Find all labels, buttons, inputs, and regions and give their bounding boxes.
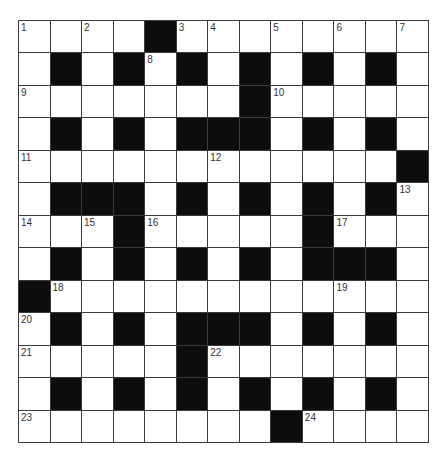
answer-cell[interactable]: 14 (19, 216, 51, 248)
answer-cell[interactable] (271, 313, 303, 345)
answer-cell[interactable] (334, 378, 366, 410)
answer-cell[interactable] (271, 183, 303, 215)
answer-cell[interactable] (51, 411, 83, 443)
answer-cell[interactable] (145, 118, 177, 150)
answer-cell[interactable] (397, 411, 429, 443)
answer-cell[interactable] (271, 118, 303, 150)
answer-cell[interactable] (240, 151, 272, 183)
answer-cell[interactable] (240, 281, 272, 313)
answer-cell[interactable] (334, 313, 366, 345)
answer-cell[interactable] (114, 281, 146, 313)
answer-cell[interactable]: 12 (208, 151, 240, 183)
answer-cell[interactable] (303, 21, 335, 53)
answer-cell[interactable] (145, 346, 177, 378)
answer-cell[interactable] (208, 216, 240, 248)
answer-cell[interactable] (397, 118, 429, 150)
answer-cell[interactable] (334, 151, 366, 183)
answer-cell[interactable]: 6 (334, 21, 366, 53)
answer-cell[interactable]: 11 (19, 151, 51, 183)
answer-cell[interactable] (145, 411, 177, 443)
answer-cell[interactable] (51, 216, 83, 248)
answer-cell[interactable] (177, 86, 209, 118)
answer-cell[interactable] (19, 378, 51, 410)
answer-cell[interactable] (397, 281, 429, 313)
answer-cell[interactable] (240, 346, 272, 378)
answer-cell[interactable] (51, 21, 83, 53)
answer-cell[interactable] (366, 86, 398, 118)
answer-cell[interactable] (366, 216, 398, 248)
answer-cell[interactable]: 7 (397, 21, 429, 53)
answer-cell[interactable] (145, 313, 177, 345)
answer-cell[interactable]: 19 (334, 281, 366, 313)
answer-cell[interactable] (397, 378, 429, 410)
answer-cell[interactable] (19, 53, 51, 85)
answer-cell[interactable] (366, 346, 398, 378)
answer-cell[interactable] (366, 151, 398, 183)
answer-cell[interactable] (334, 411, 366, 443)
answer-cell[interactable] (303, 86, 335, 118)
answer-cell[interactable] (366, 411, 398, 443)
answer-cell[interactable] (208, 53, 240, 85)
answer-cell[interactable] (397, 216, 429, 248)
answer-cell[interactable] (334, 118, 366, 150)
answer-cell[interactable] (19, 183, 51, 215)
answer-cell[interactable] (145, 248, 177, 280)
answer-cell[interactable] (82, 248, 114, 280)
answer-cell[interactable]: 18 (51, 281, 83, 313)
answer-cell[interactable] (145, 378, 177, 410)
answer-cell[interactable] (145, 281, 177, 313)
answer-cell[interactable] (19, 248, 51, 280)
answer-cell[interactable] (397, 346, 429, 378)
answer-cell[interactable] (240, 411, 272, 443)
answer-cell[interactable] (82, 411, 114, 443)
answer-cell[interactable] (208, 86, 240, 118)
answer-cell[interactable] (51, 151, 83, 183)
answer-cell[interactable]: 2 (82, 21, 114, 53)
answer-cell[interactable] (271, 346, 303, 378)
answer-cell[interactable] (208, 411, 240, 443)
answer-cell[interactable] (51, 86, 83, 118)
answer-cell[interactable] (397, 53, 429, 85)
answer-cell[interactable] (271, 281, 303, 313)
answer-cell[interactable] (114, 21, 146, 53)
answer-cell[interactable] (82, 281, 114, 313)
answer-cell[interactable] (145, 86, 177, 118)
answer-cell[interactable] (145, 183, 177, 215)
answer-cell[interactable]: 4 (208, 21, 240, 53)
answer-cell[interactable]: 16 (145, 216, 177, 248)
answer-cell[interactable] (82, 53, 114, 85)
answer-cell[interactable]: 23 (19, 411, 51, 443)
answer-cell[interactable] (177, 281, 209, 313)
answer-cell[interactable] (397, 248, 429, 280)
answer-cell[interactable] (271, 378, 303, 410)
answer-cell[interactable] (82, 378, 114, 410)
answer-cell[interactable] (303, 346, 335, 378)
answer-cell[interactable] (114, 86, 146, 118)
answer-cell[interactable]: 9 (19, 86, 51, 118)
answer-cell[interactable] (19, 118, 51, 150)
answer-cell[interactable] (82, 346, 114, 378)
answer-cell[interactable]: 22 (208, 346, 240, 378)
answer-cell[interactable] (397, 86, 429, 118)
answer-cell[interactable] (114, 346, 146, 378)
answer-cell[interactable] (271, 248, 303, 280)
answer-cell[interactable]: 10 (271, 86, 303, 118)
answer-cell[interactable] (177, 216, 209, 248)
answer-cell[interactable] (82, 313, 114, 345)
answer-cell[interactable] (114, 151, 146, 183)
answer-cell[interactable] (303, 281, 335, 313)
answer-cell[interactable]: 24 (303, 411, 335, 443)
answer-cell[interactable]: 8 (145, 53, 177, 85)
answer-cell[interactable] (366, 281, 398, 313)
answer-cell[interactable]: 13 (397, 183, 429, 215)
answer-cell[interactable]: 17 (334, 216, 366, 248)
answer-cell[interactable] (334, 183, 366, 215)
answer-cell[interactable] (82, 151, 114, 183)
answer-cell[interactable]: 20 (19, 313, 51, 345)
answer-cell[interactable] (208, 378, 240, 410)
answer-cell[interactable] (51, 346, 83, 378)
answer-cell[interactable] (334, 86, 366, 118)
answer-cell[interactable] (208, 281, 240, 313)
answer-cell[interactable] (334, 346, 366, 378)
answer-cell[interactable] (366, 21, 398, 53)
